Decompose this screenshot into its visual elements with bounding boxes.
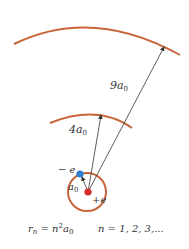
formula-condition: n = 1, 2, 3,... xyxy=(98,223,164,234)
radius-arrow-9a0 xyxy=(88,47,164,192)
bohr-orbits-diagram: 9a0 4a0 a0 − e +e rn = n2a0 n = 1, 2, 3,… xyxy=(0,0,189,249)
label-nucleus-charge: +e xyxy=(92,194,106,205)
label-4a0: 4a0 xyxy=(68,123,87,137)
label-electron-charge: − e xyxy=(58,164,76,175)
nucleus-dot xyxy=(84,188,91,195)
electron-dot xyxy=(76,170,83,177)
orbit-n2 xyxy=(50,115,132,128)
orbit-n3 xyxy=(14,27,180,55)
formula-radius: rn = n2a0 xyxy=(28,222,73,236)
label-9a0: 9a0 xyxy=(110,79,128,93)
label-a0: a0 xyxy=(68,181,78,194)
